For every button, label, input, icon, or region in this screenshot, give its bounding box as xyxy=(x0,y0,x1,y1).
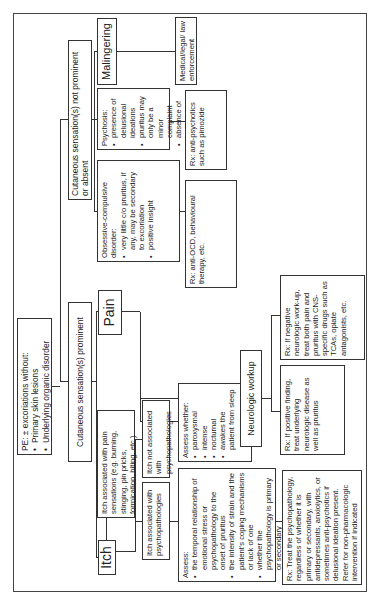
connector xyxy=(262,398,271,399)
itch-with-pain-box: Itch associated with pain sensations (e.… xyxy=(97,410,135,518)
branch-label: Cutaneous sensation(s) not prominent or … xyxy=(70,44,91,196)
rx-psych-box: Rx: Treat the psychopathology, regardles… xyxy=(282,470,362,585)
rx-negative-box: Rx: If negative neurologic work-up, trea… xyxy=(280,275,365,360)
psychosis-title: Psychosis: xyxy=(100,92,109,146)
connector xyxy=(271,315,280,316)
rx-ocd-text: Rx: anti-OCD, behavioural therapy, etc. xyxy=(188,195,206,284)
itch-not-psych-box: Itch not associated with psychopathologi… xyxy=(142,400,170,478)
root-bullet: Underlying organic disorder xyxy=(41,322,51,443)
connector xyxy=(122,311,140,312)
connector xyxy=(140,312,141,422)
rx-negative-text: Rx: If negative neurologic work-up, trea… xyxy=(283,281,348,356)
assess-bullet: the temporal relationship of emotional s… xyxy=(190,472,227,570)
branch-not-prominent: Cutaneous sensation(s) not prominent or … xyxy=(68,40,92,200)
assess-bullet: the intensity of strain and the patient'… xyxy=(227,472,255,570)
ocd-box: Obsessive-compulsive disorder: very litt… xyxy=(97,160,180,262)
assess-whether-bullet: paroxysmal xyxy=(190,387,199,450)
flowchart-canvas: PE: ± excoriations without: Primary skin… xyxy=(13,13,367,592)
rx-psych-text: Rx: Treat the psychopathology, regardles… xyxy=(285,477,359,581)
itch-not-psych-text: Itch not associated with psychopathologi… xyxy=(145,411,173,474)
connector xyxy=(117,51,175,52)
connector xyxy=(52,386,60,387)
assess-whether-bullet: awakes the patient from sleep xyxy=(218,387,237,450)
pain-node: Pain xyxy=(98,290,122,335)
medical-legal-text: Medical/legal/ law enforcement xyxy=(178,21,196,81)
connector xyxy=(106,518,107,540)
connector xyxy=(170,521,178,522)
malingering-label: Malingering xyxy=(100,23,113,80)
psychosis-bullet: pruritus may only be a minor complaint xyxy=(137,92,174,138)
connector xyxy=(115,551,135,552)
psychosis-box: Psychosis: presence of delusional ideati… xyxy=(97,88,170,150)
branch-label: Cutaneous sensation(s) prominent xyxy=(75,317,85,447)
neuro-workup-label: Neurologic workup xyxy=(246,361,257,436)
ocd-title: Obsessive-compulsive disorder: xyxy=(100,164,119,258)
itch-label: Itch xyxy=(98,546,115,569)
connector xyxy=(271,316,272,412)
psychosis-bullet: presence of delusional ideations xyxy=(109,92,137,138)
connector xyxy=(135,521,142,522)
root-title: PE: ± excoriations without: xyxy=(20,322,30,451)
neuro-workup-box: Neurologic workup xyxy=(240,350,262,447)
branch-prominent: Cutaneous sensation(s) prominent xyxy=(68,302,92,462)
ocd-bullet: very little c/o pruritus, if any, may be… xyxy=(119,164,147,250)
assess-psych-box: Assess: the temporal relationship of emo… xyxy=(178,468,276,582)
itch-psych-box: Itch associated with psychopathologies xyxy=(142,482,170,560)
itch-node: Itch xyxy=(98,540,116,575)
medical-legal-box: Medical/legal/ law enforcement xyxy=(175,17,197,85)
rx-psychosis-text: Rx: anti-psychotics such as pimozide xyxy=(188,102,206,166)
connector xyxy=(94,52,95,212)
pain-label: Pain xyxy=(101,298,118,326)
itch-psych-text: Itch associated with psychopathologies xyxy=(145,490,163,556)
ocd-bullet: positive insight xyxy=(146,164,155,250)
root-bullet: Primary skin lesions xyxy=(30,322,40,443)
assess-whether-bullet: nocturnal xyxy=(209,387,218,450)
assess-title: Assess: xyxy=(181,472,190,578)
malingering-node: Malingering xyxy=(97,18,117,85)
assess-bullet: whether the psychopathology is primary o… xyxy=(255,472,283,570)
rx-positive-box: Rx: If positive finding, treat underlyin… xyxy=(280,365,345,455)
rx-positive-text: Rx: If positive finding, treat underlyin… xyxy=(283,378,320,451)
assess-whether-bullet: intense xyxy=(200,387,209,450)
connector xyxy=(271,411,280,412)
connector xyxy=(60,381,68,382)
rx-ocd-box: Rx: anti-OCD, behavioural therapy, etc. xyxy=(185,180,237,288)
itch-with-pain-text: Itch associated with pain sensations (e.… xyxy=(100,431,137,514)
assess-whether-title: Assess whether: xyxy=(181,387,190,458)
root-box: PE: ± excoriations without: Primary skin… xyxy=(17,318,52,455)
rx-psychosis-box: Rx: anti-psychotics such as pimozide xyxy=(185,90,227,170)
connector xyxy=(60,119,68,120)
connector xyxy=(60,120,61,382)
